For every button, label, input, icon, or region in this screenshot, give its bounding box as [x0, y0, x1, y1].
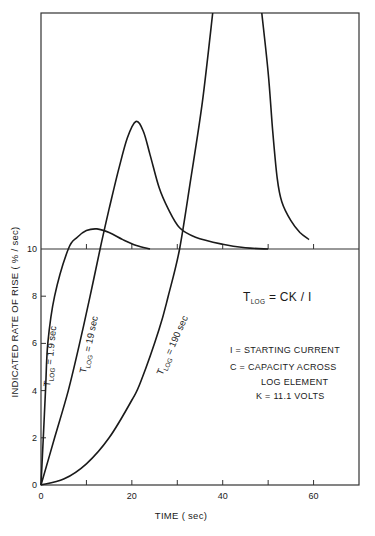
chart-canvas: 02040600246810 TIME ( sec) INDICATED RAT…	[0, 0, 375, 536]
formula-sub: LOG	[251, 298, 266, 305]
formula-annotation: TLOG = CK / I	[243, 290, 312, 304]
x-tick-label: 40	[218, 491, 228, 501]
x-tick-label: 0	[38, 491, 43, 501]
y-tick-label: 10	[27, 244, 37, 254]
curve-label-t: T	[41, 380, 53, 387]
axis-ticks: 02040600246810	[27, 244, 319, 501]
formula-t: T	[243, 290, 251, 304]
definition-c-line2: LOG ELEMENT	[261, 377, 328, 387]
y-tick-label: 0	[32, 480, 37, 490]
definition-i: I = STARTING CURRENT	[230, 345, 340, 355]
y-tick-label: 4	[32, 386, 37, 396]
curve-series-2	[41, 121, 268, 485]
curve-label-sub: LOG	[48, 367, 56, 381]
formula-rest: = CK / I	[265, 290, 311, 304]
definition-k: K = 11.1 VOLTS	[256, 391, 325, 401]
definition-c-line1: C = CAPACITY ACROSS	[230, 362, 337, 372]
plot-frame	[41, 13, 359, 485]
x-axis-title: TIME ( sec)	[155, 510, 207, 521]
curve-series-3-descending	[262, 13, 309, 240]
y-tick-label: 8	[32, 291, 37, 301]
y-axis-title: INDICATED RATE OF RISE ( % / sec)	[9, 226, 20, 397]
x-tick-label: 20	[127, 491, 137, 501]
y-tick-label: 6	[32, 338, 37, 348]
x-tick-label: 60	[309, 491, 319, 501]
y-tick-label: 2	[32, 433, 37, 443]
